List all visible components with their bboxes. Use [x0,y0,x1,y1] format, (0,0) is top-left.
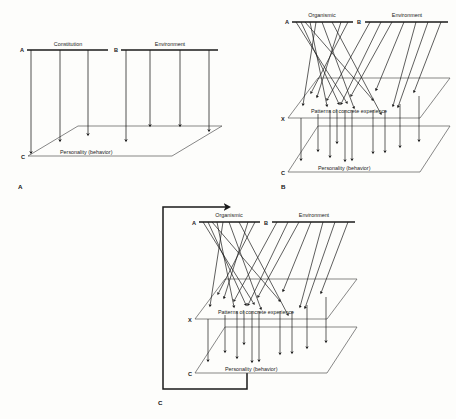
panel-b-node-x: X [281,116,285,122]
panel-c-node-b: B [264,220,268,226]
panel-b-node-c: C [281,170,285,176]
panel-b-experience-label: Patterns of concrete experience [311,108,387,114]
panel-b-caption: B [281,183,286,190]
panel-c-experience-label: Patterns of concrete experience [218,309,294,315]
panel-c-caption: C [158,399,163,406]
panel-c-environment-label: Environment [299,212,330,218]
canvas-background [0,0,456,419]
panel-c-node-a: A [192,220,196,226]
panel-c-node-x: X [188,317,192,323]
panel-a-node-b: B [114,47,118,53]
figure-root: A Constitution B Environment C Personali… [0,0,456,419]
panel-c-node-c: C [188,371,192,377]
panel-a-node-c: C [21,154,25,160]
panel-b-personality-label: Personality (behavior) [318,165,371,171]
panel-a-node-a: A [20,47,24,53]
panel-b-node-a: A [285,19,289,25]
panel-b-node-b: B [357,19,361,25]
panel-b-organismic-label: Organismic [308,12,336,18]
panel-b-environment-label: Environment [392,12,423,18]
diagram-canvas: A Constitution B Environment C Personali… [0,0,456,419]
panel-c-personality-label: Personality (behavior) [225,366,278,372]
panel-a-caption: A [18,183,23,190]
panel-c-organismic-label: Organismic [215,212,243,218]
panel-a-constitution-label: Constitution [54,41,82,47]
panel-a-environment-label: Environment [155,41,186,47]
panel-a-personality-label: Personality (behavior) [60,149,113,155]
